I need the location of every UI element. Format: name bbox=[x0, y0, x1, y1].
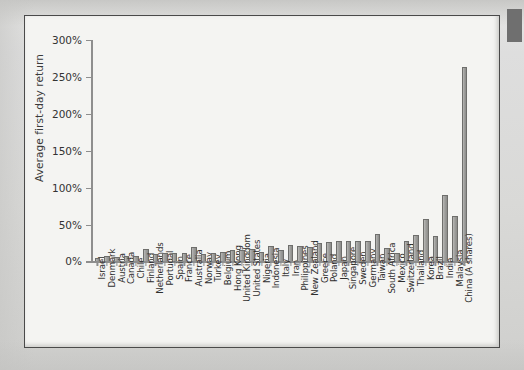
chart-figure: Average first-day return 0%50%100%150%20… bbox=[24, 15, 500, 348]
x-tick-label: China (A shares) bbox=[464, 234, 474, 303]
bar-slot[interactable]: Hong Kong bbox=[228, 40, 238, 261]
y-tick-mark bbox=[86, 188, 92, 189]
bar-slot[interactable]: Indonesia bbox=[266, 40, 276, 261]
bar-slot[interactable]: Belgium bbox=[218, 40, 228, 261]
bar-slot[interactable]: Sweden bbox=[353, 40, 363, 261]
y-tick-mark bbox=[86, 151, 92, 152]
page-corner-mark bbox=[507, 9, 522, 42]
bar-slot[interactable]: Switzerland bbox=[402, 40, 412, 261]
bar-slot[interactable]: Singapore bbox=[344, 40, 354, 261]
y-tick-label: 50% bbox=[59, 219, 82, 231]
bar-slot[interactable]: Philippines bbox=[295, 40, 305, 261]
y-tick-mark bbox=[86, 225, 92, 226]
bar-slot[interactable]: Malaysia bbox=[450, 40, 460, 261]
plot-area: 0%50%100%150%200%250%300% IsraelDenmarkA… bbox=[91, 40, 469, 263]
bar-slot[interactable]: Brazil bbox=[431, 40, 441, 261]
y-tick-mark bbox=[86, 261, 92, 262]
bar-slot[interactable]: Taiwan bbox=[373, 40, 383, 261]
bar[interactable] bbox=[462, 67, 468, 261]
y-tick-mark bbox=[86, 40, 92, 41]
bar-series: IsraelDenmarkAustriaCanadaChileFinlandNe… bbox=[93, 40, 469, 261]
bar-slot[interactable]: China (A shares) bbox=[460, 40, 470, 261]
bar-slot[interactable]: Netherlands bbox=[151, 40, 161, 261]
bar-slot[interactable]: Iran bbox=[286, 40, 296, 261]
bar-slot[interactable]: Spain bbox=[170, 40, 180, 261]
bar-slot[interactable]: Austria bbox=[112, 40, 122, 261]
bar-slot[interactable]: Israel bbox=[93, 40, 103, 261]
bar-slot[interactable]: India bbox=[440, 40, 450, 261]
y-tick-label: 200% bbox=[52, 108, 82, 120]
bar-slot[interactable]: Thailand bbox=[411, 40, 421, 261]
bar-slot[interactable]: France bbox=[180, 40, 190, 261]
bar-slot[interactable]: Turkey bbox=[208, 40, 218, 261]
y-tick-mark bbox=[86, 114, 92, 115]
bar-slot[interactable]: Australia bbox=[189, 40, 199, 261]
bar-slot[interactable]: Canada bbox=[122, 40, 132, 261]
bar-slot[interactable]: Chile bbox=[131, 40, 141, 261]
y-tick-label: 300% bbox=[52, 34, 82, 46]
bar-slot[interactable]: Denmark bbox=[102, 40, 112, 261]
bar-slot[interactable]: United Kingdom bbox=[237, 40, 247, 261]
bar-slot[interactable]: Italy bbox=[276, 40, 286, 261]
bar-slot[interactable]: Korea bbox=[421, 40, 431, 261]
bar-slot[interactable]: Germany bbox=[363, 40, 373, 261]
bar-slot[interactable]: Mexico bbox=[392, 40, 402, 261]
y-tick-label: 0% bbox=[65, 255, 82, 267]
bar[interactable] bbox=[442, 195, 448, 261]
bar-slot[interactable]: Poland bbox=[324, 40, 334, 261]
bar-slot[interactable]: Norway bbox=[199, 40, 209, 261]
screenshot-root: Average first-day return 0%50%100%150%20… bbox=[0, 0, 524, 370]
chart-figure-inner: Average first-day return 0%50%100%150%20… bbox=[25, 16, 499, 347]
bar[interactable] bbox=[423, 219, 429, 262]
bar-slot[interactable]: New Zealand bbox=[305, 40, 315, 261]
bar-slot[interactable]: Finland bbox=[141, 40, 151, 261]
y-tick-label: 100% bbox=[52, 182, 82, 194]
y-axis-title: Average first-day return bbox=[33, 28, 45, 208]
bar-slot[interactable]: Japan bbox=[334, 40, 344, 261]
bar-slot[interactable]: Nigeria bbox=[257, 40, 267, 261]
bar-slot[interactable]: Greece bbox=[315, 40, 325, 261]
y-tick-label: 250% bbox=[52, 71, 82, 83]
bar-slot[interactable]: United States bbox=[247, 40, 257, 261]
y-tick-label: 150% bbox=[52, 145, 82, 157]
bar-slot[interactable]: South Africa bbox=[382, 40, 392, 261]
y-tick-mark bbox=[86, 77, 92, 78]
bar-slot[interactable]: Portugal bbox=[160, 40, 170, 261]
